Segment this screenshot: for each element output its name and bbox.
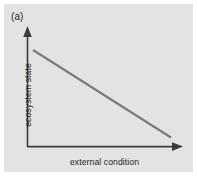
- data-line-series-1: [33, 50, 171, 138]
- x-axis-label: external condition: [27, 157, 182, 167]
- y-axis-label: ecosystem state: [23, 47, 33, 143]
- figure-panel-a: (a) ecosystem state external condition: [0, 0, 197, 176]
- x-axis-arrowhead: [172, 142, 183, 151]
- y-axis-arrowhead: [23, 26, 32, 37]
